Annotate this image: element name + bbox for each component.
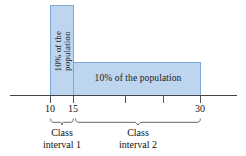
x-axis-line — [10, 95, 237, 96]
class-interval-2-brace — [75, 118, 201, 126]
class-interval-2-caption-line1: Class — [108, 127, 168, 139]
bar-class-interval-1: 10% of the population — [50, 5, 74, 96]
class-interval-2-caption: Class interval 2 — [108, 127, 168, 151]
axis-tick-20 — [125, 96, 126, 103]
axis-tick-15 — [73, 96, 74, 103]
class-interval-1-caption-line2: interval 1 — [32, 139, 92, 151]
axis-tick-10 — [50, 96, 51, 103]
class-interval-1-caption-line1: Class — [32, 127, 92, 139]
axis-tick-30 — [200, 96, 201, 103]
axis-tick-25 — [163, 96, 164, 103]
class-interval-1-brace — [50, 118, 74, 126]
brace-1-shape — [50, 118, 74, 126]
brace-2-shape — [75, 118, 201, 126]
axis-tick-label-15: 15 — [61, 103, 85, 114]
class-interval-1-caption: Class interval 1 — [32, 127, 92, 151]
bar-class-interval-1-label: 10% of the population — [54, 11, 72, 91]
axis-tick-label-30: 30 — [188, 103, 212, 114]
histogram-figure: 10% of the population 10% of the populat… — [0, 0, 246, 156]
bar-class-interval-2: 10% of the population — [73, 62, 201, 96]
class-interval-2-caption-line2: interval 2 — [108, 139, 168, 151]
bar-class-interval-2-label: 10% of the population — [74, 74, 202, 84]
axis-tick-label-10: 10 — [38, 103, 62, 114]
